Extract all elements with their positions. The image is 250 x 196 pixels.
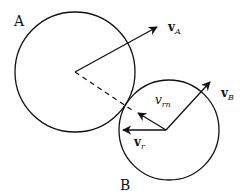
vector-va-label: vA	[167, 20, 181, 36]
vector-vr-label: vr	[133, 135, 146, 151]
collision-diagram: ABvAvBvrnvr	[0, 0, 250, 196]
velocity-vectors	[75, 27, 210, 130]
labels: ABvAvBvrnvr	[13, 13, 234, 193]
vector-vrn-label: vrn	[155, 93, 171, 109]
body-a-label: A	[13, 13, 25, 29]
line-of-centers	[75, 72, 135, 112]
vector-vrn-arrow	[138, 113, 166, 130]
vector-vb-label: vB	[220, 86, 234, 102]
vector-va-arrow	[75, 27, 157, 72]
dashed-center-line	[75, 72, 135, 112]
vector-vb-arrow	[166, 82, 210, 130]
bodies	[15, 12, 219, 180]
body-b-label: B	[120, 177, 130, 193]
